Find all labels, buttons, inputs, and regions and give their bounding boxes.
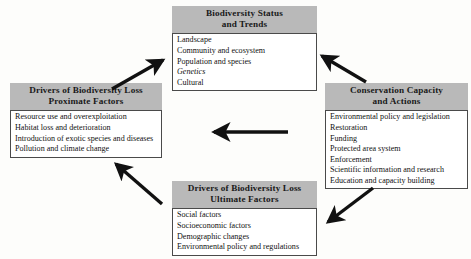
list-item: Demographic changes bbox=[173, 232, 316, 243]
arrow-right-box-to-bottom-box bbox=[318, 182, 380, 230]
list-item: Resource use and overexploitation bbox=[11, 112, 161, 123]
box-header-line-2: and Trends bbox=[176, 19, 313, 30]
list-item: Introduction of exotic species and disea… bbox=[11, 134, 161, 145]
box-body-drivers-ultimate-factors: Social factors Socioeconomic factors Dem… bbox=[172, 208, 317, 255]
item-list: Social factors Socioeconomic factors Dem… bbox=[173, 210, 316, 252]
item-list: Environmental policy and legislation Res… bbox=[326, 112, 467, 186]
box-header-biodiversity-status-and-trends: Biodiversity Status and Trends bbox=[172, 6, 317, 33]
box-body-conservation-capacity-and-actions: Environmental policy and legislation Res… bbox=[325, 110, 468, 189]
arrow-right-box-to-left-box bbox=[202, 124, 292, 140]
arrow-left-box-to-top-box bbox=[110, 54, 172, 92]
box-conservation-capacity-and-actions: Conservation Capacity and Actions Enviro… bbox=[325, 83, 468, 189]
box-drivers-proximate-factors: Drivers of Biodiversity Loss Proximate F… bbox=[10, 83, 162, 158]
list-item: Pollution and climate change bbox=[11, 144, 161, 155]
list-item: Population and species bbox=[173, 57, 316, 68]
list-item: Scientific information and research bbox=[326, 165, 467, 176]
box-biodiversity-status-and-trends: Biodiversity Status and Trends Landscape… bbox=[172, 6, 317, 91]
arrow-bottom-box-to-left-box bbox=[106, 157, 168, 209]
list-item: Restoration bbox=[326, 123, 467, 134]
box-header-line-2: Ultimate Factors bbox=[176, 194, 313, 205]
box-header-line-2: Proximate Factors bbox=[14, 96, 158, 107]
list-item: Enforcement bbox=[326, 155, 467, 166]
box-drivers-ultimate-factors: Drivers of Biodiversity Loss Ultimate Fa… bbox=[172, 181, 317, 256]
box-body-biodiversity-status-and-trends: Landscape Community and ecosystem Popula… bbox=[172, 33, 317, 91]
list-item: Landscape bbox=[173, 35, 316, 46]
list-item: Environmental policy and legislation bbox=[326, 112, 467, 123]
list-item: Genetics bbox=[173, 67, 316, 78]
list-item: Funding bbox=[326, 134, 467, 145]
box-header-line-1: Biodiversity Status bbox=[176, 8, 313, 19]
diagram-canvas: Biodiversity Status and Trends Landscape… bbox=[0, 0, 471, 259]
list-item: Community and ecosystem bbox=[173, 46, 316, 57]
item-list: Landscape Community and ecosystem Popula… bbox=[173, 35, 316, 88]
box-body-drivers-proximate-factors: Resource use and overexploitation Habita… bbox=[10, 110, 162, 157]
list-item: Social factors bbox=[173, 210, 316, 221]
box-header-line-2: and Actions bbox=[329, 96, 464, 107]
list-item: Protected area system bbox=[326, 144, 467, 155]
item-list: Resource use and overexploitation Habita… bbox=[11, 112, 161, 154]
box-header-drivers-ultimate-factors: Drivers of Biodiversity Loss Ultimate Fa… bbox=[172, 181, 317, 208]
box-header-line-1: Drivers of Biodiversity Loss bbox=[176, 183, 313, 194]
arrow-right-box-to-top-box bbox=[315, 50, 373, 88]
list-item: Habitat loss and deterioration bbox=[11, 123, 161, 134]
list-item: Environmental policy and regulations bbox=[173, 242, 316, 253]
list-item: Socioeconomic factors bbox=[173, 221, 316, 232]
list-item: Cultural bbox=[173, 78, 316, 89]
